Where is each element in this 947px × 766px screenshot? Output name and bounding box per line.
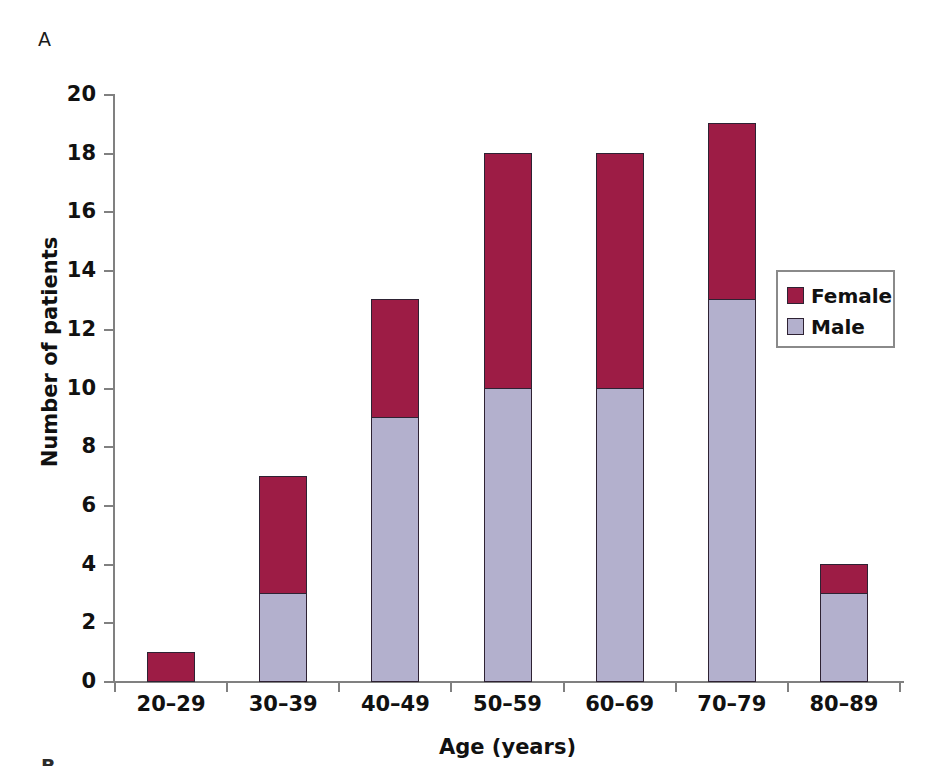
y-axis-tick-label: 2 <box>44 612 96 633</box>
plot-area <box>115 95 900 682</box>
legend-item-female: Female <box>787 280 893 311</box>
x-axis-tick <box>787 681 789 692</box>
bar-stack <box>484 95 532 682</box>
x-axis-tick-label: 70–79 <box>676 694 788 715</box>
y-axis-tick <box>104 388 114 390</box>
bar-segment-female <box>259 476 307 594</box>
legend-label-female: Female <box>811 286 892 306</box>
bar-segment-female <box>484 153 532 389</box>
bar-segment-female <box>147 652 195 682</box>
x-axis-tick <box>563 681 565 692</box>
bar-segment-male <box>259 593 307 682</box>
x-axis-tick <box>338 681 340 692</box>
bar-segment-female <box>596 153 644 389</box>
chart-figure: A B 02468101214161820 20–2930–3940–4950–… <box>0 0 947 766</box>
y-axis-tick <box>104 211 114 213</box>
bar-segment-male <box>708 299 756 682</box>
bar-stack <box>708 95 756 682</box>
x-axis-tick-label: 80–89 <box>788 694 900 715</box>
bar-segment-male <box>820 593 868 682</box>
x-axis-tick <box>450 681 452 692</box>
bar-segment-female <box>371 299 419 417</box>
bar-stack <box>820 95 868 682</box>
y-axis-tick <box>104 153 114 155</box>
y-axis-tick <box>104 270 114 272</box>
y-axis-tick-label: 18 <box>44 143 96 164</box>
y-axis-tick-label: 0 <box>44 671 96 692</box>
y-axis-tick <box>104 505 114 507</box>
x-axis-tick-label: 30–39 <box>227 694 339 715</box>
bar-segment-male <box>596 388 644 683</box>
x-axis-tick-label: 50–59 <box>451 694 563 715</box>
y-axis-tick <box>104 622 114 624</box>
x-axis-tick-label: 40–49 <box>339 694 451 715</box>
legend-label-male: Male <box>811 317 865 337</box>
bar-segment-female <box>820 564 868 594</box>
y-axis-tick-label: 4 <box>44 554 96 575</box>
x-axis-tick <box>899 681 901 692</box>
y-axis-tick-label: 20 <box>44 84 96 105</box>
x-axis-tick <box>675 681 677 692</box>
y-axis-tick <box>104 681 114 683</box>
y-axis-tick <box>104 94 114 96</box>
bar-segment-male <box>484 388 532 683</box>
bar-stack <box>147 95 195 682</box>
x-axis-tick <box>114 681 116 692</box>
y-axis-tick <box>104 329 114 331</box>
bar-segment-male <box>371 417 419 682</box>
x-axis-tick <box>226 681 228 692</box>
x-axis-title: Age (years) <box>115 735 900 759</box>
legend-item-male: Male <box>787 311 893 342</box>
bar-stack <box>596 95 644 682</box>
y-axis-title: Number of patients <box>38 202 62 502</box>
legend-swatch-male <box>787 318 804 335</box>
legend-swatch-female <box>787 287 804 304</box>
y-axis-tick <box>104 564 114 566</box>
bar-segment-female <box>708 123 756 300</box>
x-axis-tick-label: 20–29 <box>115 694 227 715</box>
legend: FemaleMale <box>776 270 895 348</box>
y-axis-tick <box>104 446 114 448</box>
bar-stack <box>371 95 419 682</box>
bar-stack <box>259 95 307 682</box>
x-axis-tick-label: 60–69 <box>564 694 676 715</box>
